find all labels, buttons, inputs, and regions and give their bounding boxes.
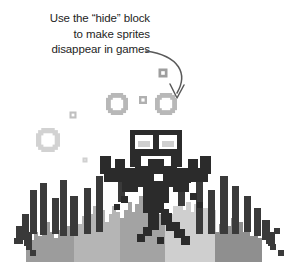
pixel-art-canvas xyxy=(0,0,294,279)
illustration-scene: Use the “hide” block to make sprites dis… xyxy=(0,0,294,279)
